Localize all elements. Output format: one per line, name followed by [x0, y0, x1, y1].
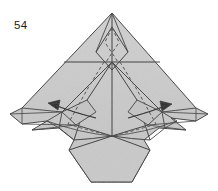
origami-figure: 54 [0, 0, 218, 191]
step-number-label: 54 [14, 19, 27, 32]
origami-diagram-svg [0, 0, 218, 191]
